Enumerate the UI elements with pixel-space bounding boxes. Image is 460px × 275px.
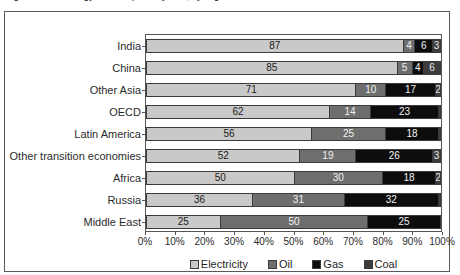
legend-swatch-coal-icon bbox=[364, 260, 373, 269]
bar-segment-value: 62 bbox=[232, 107, 243, 117]
bar-segment-gas: 26 bbox=[355, 149, 432, 163]
bar-segment-value: 25 bbox=[399, 217, 410, 227]
chart-row: OECD6214231 bbox=[146, 101, 441, 123]
category-label: Russia bbox=[9, 189, 141, 211]
bar-segment-coal: 1 bbox=[438, 193, 441, 207]
stacked-bar: 3631321 bbox=[146, 193, 441, 207]
x-axis-tick bbox=[234, 232, 235, 235]
bar-segment-value: 85 bbox=[266, 63, 277, 73]
bar-segment-oil: 50 bbox=[220, 215, 368, 229]
bar-segment-gas: 6 bbox=[414, 39, 432, 53]
bar-segment-oil: 25 bbox=[311, 127, 385, 141]
figure-frame: India87463China85546Other Asia7110172OEC… bbox=[4, 11, 450, 272]
bar-segment-value: 17 bbox=[405, 85, 416, 95]
legend-swatch-gas-icon bbox=[312, 260, 321, 269]
bar-segment-value: 2 bbox=[435, 85, 441, 95]
legend-swatch-oil-icon bbox=[268, 260, 277, 269]
bar-segment-value: 3 bbox=[434, 151, 440, 161]
bar-segment-value: 6 bbox=[429, 63, 435, 73]
x-axis-tick bbox=[145, 232, 146, 235]
bar-segment-value: 25 bbox=[178, 217, 189, 227]
bar-segment-value: 56 bbox=[224, 129, 235, 139]
bar-segment-value: 23 bbox=[399, 107, 410, 117]
bar-segment-gas: 23 bbox=[370, 105, 438, 119]
bar-segment-value: 36 bbox=[194, 195, 205, 205]
category-label: Middle East bbox=[9, 211, 141, 233]
bar-segment-value: 5 bbox=[402, 63, 408, 73]
bar-segment-coal: 3 bbox=[432, 149, 441, 163]
bar-segment-value: 19 bbox=[322, 151, 333, 161]
bar-segment-value: 4 bbox=[406, 41, 412, 51]
chart-row: Other transition economies5219263 bbox=[146, 145, 441, 167]
chart-row: Russia3631321 bbox=[146, 189, 441, 211]
bar-segment-oil: 14 bbox=[329, 105, 370, 119]
x-axis-tick-label: 100% bbox=[422, 236, 460, 248]
x-axis-tick bbox=[294, 232, 295, 235]
x-axis: 0%10%20%30%40%50%60%70%80%90%100% bbox=[145, 232, 442, 250]
legend-swatch-electricity-icon bbox=[190, 260, 199, 269]
bar-segment-electricity: 71 bbox=[146, 83, 355, 97]
x-axis-tick bbox=[264, 232, 265, 235]
stacked-bar: 87463 bbox=[146, 39, 441, 53]
chart-row: China85546 bbox=[146, 57, 441, 79]
bar-segment-value: 18 bbox=[406, 129, 417, 139]
category-label: Africa bbox=[9, 167, 141, 189]
bar-segment-electricity: 52 bbox=[146, 149, 299, 163]
bar-segment-value: 71 bbox=[246, 85, 257, 95]
bar-segment-oil: 30 bbox=[294, 171, 383, 185]
bar-segment-oil: 31 bbox=[252, 193, 343, 207]
x-axis-tick bbox=[383, 232, 384, 235]
bar-segment-value: 50 bbox=[215, 173, 226, 183]
bar-segment-electricity: 85 bbox=[146, 61, 397, 75]
bar-segment-electricity: 56 bbox=[146, 127, 311, 141]
bar-segment-electricity: 62 bbox=[146, 105, 329, 119]
x-axis-tick bbox=[323, 232, 324, 235]
category-label: Other Asia bbox=[9, 79, 141, 101]
bar-segment-electricity: 50 bbox=[146, 171, 294, 185]
bar-segment-gas: 32 bbox=[344, 193, 438, 207]
x-axis-tick bbox=[442, 232, 443, 235]
chart-row: India87463 bbox=[146, 35, 441, 57]
x-axis-tick bbox=[412, 232, 413, 235]
bar-segment-coal: 2 bbox=[435, 171, 441, 185]
bar-segment-gas: 17 bbox=[385, 83, 435, 97]
x-axis-tick bbox=[175, 232, 176, 235]
stacked-bar: 5219263 bbox=[146, 149, 441, 163]
bar-segment-value: 4 bbox=[415, 63, 421, 73]
bar-segment-value: 32 bbox=[386, 195, 397, 205]
bar-segment-gas: 25 bbox=[367, 215, 441, 229]
bar-segment-value: 50 bbox=[288, 217, 299, 227]
stacked-bar: 5625181 bbox=[146, 127, 441, 141]
chart-row: Latin America5625181 bbox=[146, 123, 441, 145]
bar-segment-gas: 18 bbox=[382, 171, 435, 185]
category-label: OECD bbox=[9, 101, 141, 123]
bar-segment-value: 26 bbox=[389, 151, 400, 161]
bar-segment-electricity: 36 bbox=[146, 193, 252, 207]
bar-segment-coal: 3 bbox=[432, 39, 441, 53]
bar-segment-oil: 4 bbox=[403, 39, 415, 53]
bar-segment-value: 25 bbox=[343, 129, 354, 139]
stacked-bar: 85546 bbox=[146, 61, 441, 75]
legend-label: Electricity bbox=[201, 258, 248, 270]
bar-segment-value: 18 bbox=[403, 173, 414, 183]
bar-segment-oil: 19 bbox=[299, 149, 355, 163]
figure-title: Figure: Final energy consumption by fuel… bbox=[0, 0, 454, 10]
legend-item-electricity: Electricity bbox=[190, 258, 248, 270]
bar-segment-electricity: 25 bbox=[146, 215, 220, 229]
bar-segment-coal: 2 bbox=[435, 83, 441, 97]
bar-segment-electricity: 87 bbox=[146, 39, 403, 53]
legend-label: Coal bbox=[375, 258, 398, 270]
x-axis-tick bbox=[353, 232, 354, 235]
category-label: Other transition economies bbox=[9, 145, 141, 167]
bar-segment-value: 10 bbox=[365, 85, 376, 95]
legend-label: Oil bbox=[279, 258, 292, 270]
bar-segment-value: 14 bbox=[344, 107, 355, 117]
x-axis-tick bbox=[204, 232, 205, 235]
bar-segment-gas: 18 bbox=[385, 127, 438, 141]
bar-segment-oil: 10 bbox=[355, 83, 385, 97]
bar-segment-value: 31 bbox=[293, 195, 304, 205]
bar-segment-gas: 4 bbox=[412, 61, 424, 75]
chart-legend: ElectricityOilGasCoal bbox=[145, 256, 442, 272]
bar-segment-value: 6 bbox=[421, 41, 427, 51]
